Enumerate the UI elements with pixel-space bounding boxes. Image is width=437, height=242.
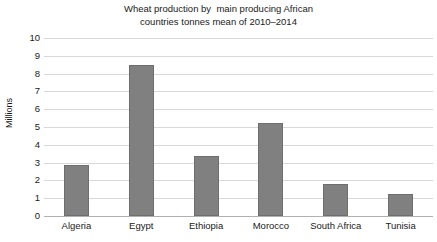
y-tick-label: 10 xyxy=(6,33,40,43)
plot-area xyxy=(44,38,433,216)
bar-chart-figure: Wheat production by main producing Afric… xyxy=(0,0,437,242)
y-tick-label: 4 xyxy=(6,140,40,150)
y-tick-label: 9 xyxy=(6,51,40,61)
chart-title-line-2: countries tonnes mean of 2010–2014 xyxy=(140,16,297,27)
x-axis-category-labels: AlgeriaEgyptEthiopiaMoroccoSouth AfricaT… xyxy=(44,220,433,236)
chart-title-line-1: Wheat production by main producing Afric… xyxy=(124,3,313,14)
gridline xyxy=(44,180,433,181)
bar xyxy=(64,165,89,216)
gridline xyxy=(44,91,433,92)
bar xyxy=(194,156,219,216)
bar xyxy=(388,194,413,216)
y-tick-label: 2 xyxy=(6,175,40,185)
category-label: Ethiopia xyxy=(189,220,223,231)
y-tick-label: 8 xyxy=(6,69,40,79)
y-tick-label: 3 xyxy=(6,158,40,168)
category-label: Egypt xyxy=(129,220,153,231)
bar xyxy=(129,65,154,216)
category-label: Algeria xyxy=(62,220,92,231)
y-tick-label: 7 xyxy=(6,86,40,96)
gridline xyxy=(44,198,433,199)
category-label: Tunisia xyxy=(385,220,415,231)
axis-baseline xyxy=(44,216,433,217)
category-label: South Africa xyxy=(310,220,361,231)
chart-title: Wheat production by main producing Afric… xyxy=(0,2,437,28)
y-tick-label: 5 xyxy=(6,122,40,132)
y-tick-label: 1 xyxy=(6,193,40,203)
y-tick-label: 0 xyxy=(6,211,40,221)
y-axis-tick-labels: 109876543210 xyxy=(0,38,40,216)
y-tick-label: 6 xyxy=(6,104,40,114)
gridline xyxy=(44,145,433,146)
bar xyxy=(323,184,348,216)
category-label: Morocco xyxy=(253,220,289,231)
gridline xyxy=(44,127,433,128)
gridline xyxy=(44,109,433,110)
bar xyxy=(258,123,283,216)
gridline xyxy=(44,56,433,57)
gridline xyxy=(44,38,433,39)
gridline xyxy=(44,74,433,75)
gridline xyxy=(44,163,433,164)
